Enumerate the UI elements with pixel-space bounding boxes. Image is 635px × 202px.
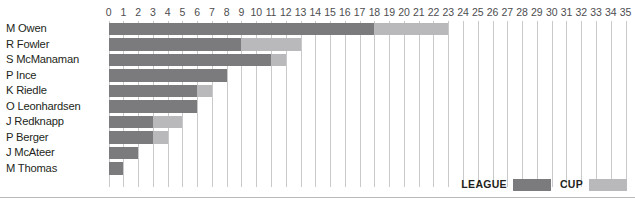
x-axis-tick-label: 2 — [135, 6, 141, 18]
stacked-bar — [0, 147, 635, 160]
x-axis-tick-label: 32 — [575, 6, 586, 18]
x-axis-tick-label: 7 — [209, 6, 215, 18]
x-axis-tick-label: 14 — [310, 6, 321, 18]
x-axis-tick-label: 28 — [516, 6, 527, 18]
bar-segment-league — [109, 131, 153, 144]
bar-segment-league — [109, 147, 139, 160]
bar-segment-league — [109, 38, 242, 51]
legend-entry: LEAGUE — [461, 178, 551, 191]
chart-top-rule — [0, 0, 635, 1]
bar-chart: 0123456789101112131415161718192021222324… — [0, 0, 635, 202]
stacked-bar — [0, 131, 635, 144]
legend-swatch — [589, 179, 627, 191]
x-axis-tick-label: 25 — [472, 6, 483, 18]
chart-row: J McAteer — [0, 145, 635, 161]
x-axis-tick-label: 15 — [324, 6, 335, 18]
x-axis-tick-label: 12 — [280, 6, 291, 18]
x-axis-tick-label: 31 — [561, 6, 572, 18]
x-axis-tick-label: 3 — [150, 6, 156, 18]
bar-segment-league — [109, 54, 271, 67]
bar-segment-league — [109, 162, 124, 175]
bar-segment-league — [109, 100, 198, 113]
x-axis-tick-label: 27 — [502, 6, 513, 18]
stacked-bar — [0, 38, 635, 51]
x-axis-tick-label: 20 — [398, 6, 409, 18]
x-axis-tick-label: 19 — [383, 6, 394, 18]
x-axis-tick-label: 23 — [442, 6, 453, 18]
x-axis-tick-label: 30 — [546, 6, 557, 18]
chart-row: M Thomas — [0, 161, 635, 177]
chart-row: O Leonhardsen — [0, 99, 635, 115]
chart-row: P Berger — [0, 130, 635, 146]
bar-segment-cup — [153, 131, 168, 144]
x-axis-tick-label: 17 — [354, 6, 365, 18]
chart-baseline-rule — [0, 197, 635, 198]
x-axis-tick-label: 18 — [369, 6, 380, 18]
x-axis-tick-label: 5 — [179, 6, 185, 18]
x-axis-tick-label: 4 — [165, 6, 171, 18]
x-axis-tick-label: 26 — [487, 6, 498, 18]
bar-segment-cup — [197, 85, 212, 98]
x-axis-tick-label: 6 — [194, 6, 200, 18]
x-axis-tick-label: 10 — [250, 6, 261, 18]
stacked-bar — [0, 69, 635, 82]
bar-segment-league — [109, 69, 227, 82]
bar-segment-league — [109, 116, 153, 129]
legend-label: CUP — [560, 178, 583, 191]
stacked-bar — [0, 54, 635, 67]
x-axis-tick-label: 29 — [531, 6, 542, 18]
x-axis-tick-label: 21 — [413, 6, 424, 18]
stacked-bar — [0, 162, 635, 175]
x-axis-tick-label: 11 — [266, 6, 277, 18]
x-axis-tick-label: 24 — [457, 6, 468, 18]
x-axis-tick-label: 13 — [295, 6, 306, 18]
chart-rows: M OwenR FowlerS McManamanP InceK RiedleO… — [0, 21, 635, 176]
x-axis-tick-label: 0 — [106, 6, 112, 18]
legend-label: LEAGUE — [461, 178, 507, 191]
x-axis-tick-label: 35 — [620, 6, 631, 18]
bar-segment-league — [109, 85, 198, 98]
chart-row: S McManaman — [0, 52, 635, 68]
x-axis-tick-labels: 0123456789101112131415161718192021222324… — [0, 6, 635, 20]
chart-row: M Owen — [0, 21, 635, 37]
chart-row: J Redknapp — [0, 114, 635, 130]
bar-segment-cup — [374, 23, 448, 36]
bar-segment-cup — [153, 116, 183, 129]
bar-segment-league — [109, 23, 375, 36]
x-axis-tick-label: 22 — [428, 6, 439, 18]
bar-segment-cup — [271, 54, 286, 67]
chart-row: R Fowler — [0, 37, 635, 53]
x-axis-tick-label: 8 — [224, 6, 230, 18]
stacked-bar — [0, 23, 635, 36]
stacked-bar — [0, 85, 635, 98]
x-axis-tick-label: 9 — [239, 6, 245, 18]
x-axis-tick-label: 34 — [605, 6, 616, 18]
stacked-bar — [0, 100, 635, 113]
stacked-bar — [0, 116, 635, 129]
x-axis-tick-label: 33 — [590, 6, 601, 18]
chart-row: K Riedle — [0, 83, 635, 99]
legend-swatch — [513, 179, 551, 191]
chart-row: P Ince — [0, 68, 635, 84]
chart-legend: LEAGUECUP — [461, 178, 627, 191]
legend-entry: CUP — [560, 178, 627, 191]
x-axis-tick-label: 16 — [339, 6, 350, 18]
bar-segment-cup — [241, 38, 300, 51]
x-axis-tick-label: 1 — [120, 6, 126, 18]
